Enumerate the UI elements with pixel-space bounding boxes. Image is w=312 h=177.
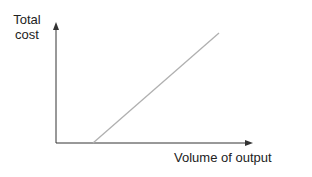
y-axis-label: Total cost	[6, 12, 48, 42]
y-label-line2: cost	[6, 27, 48, 42]
y-label-line1: Total	[6, 12, 48, 27]
y-axis-arrow-icon	[53, 22, 59, 30]
total-cost-line	[93, 33, 219, 143]
total-cost-diagram: Total cost Volume of output	[0, 0, 312, 177]
x-axis-label: Volume of output	[174, 150, 272, 165]
x-axis-arrow-icon	[245, 140, 253, 146]
